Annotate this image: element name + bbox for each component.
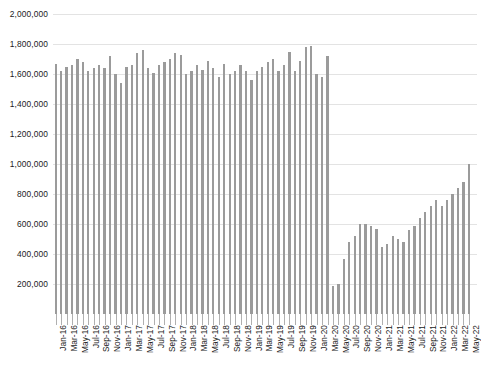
bar: [419, 218, 421, 314]
bar: [234, 71, 236, 314]
x-tick: [306, 314, 307, 325]
x-tick: [192, 314, 193, 325]
x-tick-label: Jan-22: [450, 325, 459, 351]
y-axis: 2,000,0001,800,0001,600,0001,400,0001,20…: [0, 0, 52, 320]
x-tick: [295, 314, 296, 325]
bar: [272, 59, 274, 314]
y-tick-label: 1,000,000: [10, 159, 48, 169]
bar-chart: 2,000,0001,800,0001,600,0001,400,0001,20…: [0, 0, 481, 370]
x-tick: [289, 314, 290, 325]
bar: [245, 71, 247, 314]
bar: [76, 59, 78, 314]
x-tick-label: Nov-20: [374, 325, 383, 352]
bar: [299, 61, 301, 315]
x-tick: [366, 314, 367, 325]
bar: [190, 71, 192, 314]
bar: [147, 68, 149, 314]
bar: [462, 182, 464, 314]
x-tick-label: Jan-21: [385, 325, 394, 351]
bar: [87, 71, 89, 314]
x-tick-label: Sep-20: [363, 325, 372, 352]
bar: [196, 65, 198, 314]
x-tick: [170, 314, 171, 325]
x-tick-label: Jan-18: [189, 325, 198, 351]
x-tick: [208, 314, 209, 325]
bar: [152, 73, 154, 315]
x-tick: [246, 314, 247, 325]
x-tick: [371, 314, 372, 325]
bar: [239, 65, 241, 314]
x-tick: [349, 314, 350, 325]
y-tick-label: 800,000: [17, 189, 48, 199]
bar: [354, 236, 356, 314]
bar: [174, 53, 176, 314]
x-tick: [137, 314, 138, 325]
x-tick-label: Sep-18: [233, 325, 242, 352]
bar: [315, 74, 317, 314]
bar: [212, 68, 214, 314]
x-tick: [398, 314, 399, 325]
bar: [169, 59, 171, 314]
bar: [326, 56, 328, 314]
x-tick: [436, 314, 437, 325]
y-tick-label: 1,400,000: [10, 99, 48, 109]
x-tick-label: May-16: [81, 325, 90, 353]
bar: [386, 244, 388, 315]
y-tick-label: 1,800,000: [10, 39, 48, 49]
x-tick: [230, 314, 231, 325]
x-tick: [181, 314, 182, 325]
bar: [229, 74, 231, 314]
bar: [82, 62, 84, 314]
x-tick-label: Mar-19: [265, 325, 274, 352]
x-tick: [360, 314, 361, 325]
x-tick-label: Nov-21: [439, 325, 448, 352]
bar: [163, 62, 165, 314]
x-tick-label: Jul-17: [157, 325, 166, 348]
x-tick: [311, 314, 312, 325]
bar: [370, 226, 372, 315]
x-tick-label: Jul-16: [92, 325, 101, 348]
x-tick: [420, 314, 421, 325]
bar: [375, 229, 377, 315]
x-tick: [88, 314, 89, 325]
bar: [451, 194, 453, 314]
bar: [468, 164, 470, 314]
bar: [441, 206, 443, 314]
x-tick-label: May-22: [472, 325, 481, 353]
x-tick-label: Nov-19: [309, 325, 318, 352]
bar: [283, 65, 285, 314]
bar: [321, 77, 323, 314]
bar: [185, 74, 187, 314]
y-tick-label: 1,200,000: [10, 129, 48, 139]
x-tick: [273, 314, 274, 325]
x-tick: [197, 314, 198, 325]
bars-series: [53, 14, 477, 314]
x-tick: [77, 314, 78, 325]
x-tick: [279, 314, 280, 325]
x-tick: [409, 314, 410, 325]
x-tick: [344, 314, 345, 325]
x-tick-label: Mar-18: [200, 325, 209, 352]
x-tick: [425, 314, 426, 325]
x-tick: [447, 314, 448, 325]
x-tick: [355, 314, 356, 325]
x-tick: [110, 314, 111, 325]
x-tick: [186, 314, 187, 325]
x-tick-label: Jul-21: [418, 325, 427, 348]
bar: [310, 46, 312, 315]
x-tick-label: Nov-17: [179, 325, 188, 352]
bar: [435, 200, 437, 314]
bar: [343, 259, 345, 315]
bar: [446, 200, 448, 314]
x-tick: [317, 314, 318, 325]
bar: [402, 242, 404, 314]
bar: [55, 64, 57, 315]
bar: [288, 52, 290, 315]
x-tick-label: Mar-21: [396, 325, 405, 352]
bar: [250, 80, 252, 314]
x-tick: [284, 314, 285, 325]
x-tick: [382, 314, 383, 325]
x-tick-label: Jul-19: [287, 325, 296, 348]
x-tick-label: Jul-20: [352, 325, 361, 348]
bar: [180, 55, 182, 315]
